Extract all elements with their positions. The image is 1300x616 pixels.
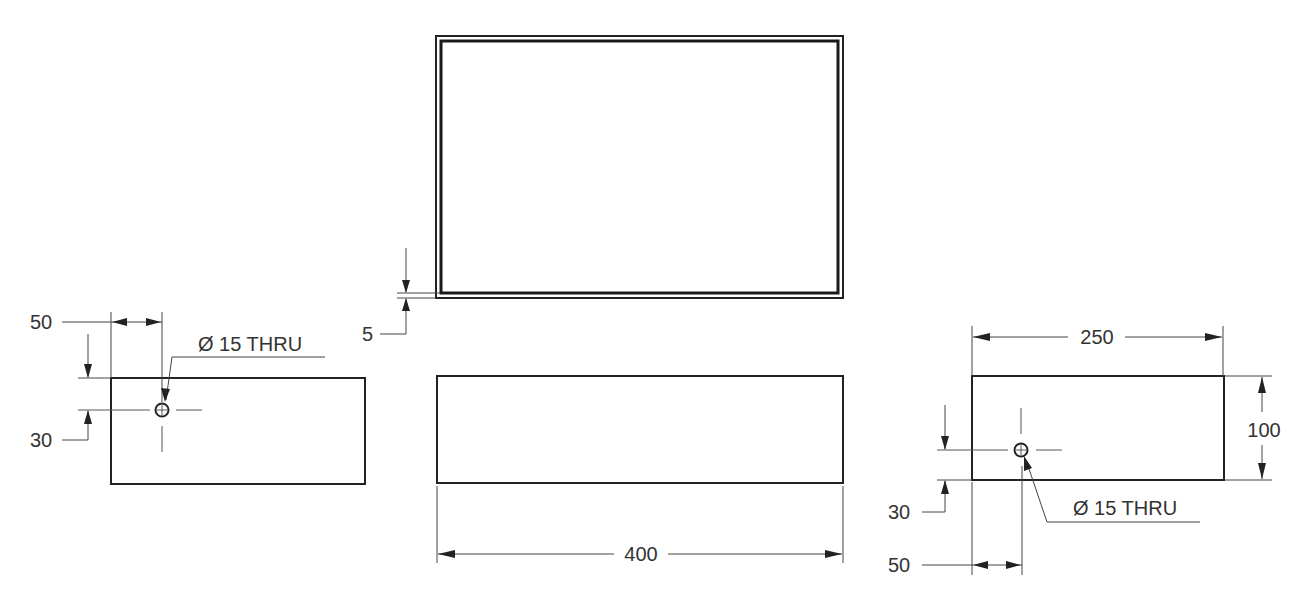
arrow-up-icon (941, 480, 949, 494)
arrow-left-icon (973, 561, 988, 569)
right-view-outline (972, 376, 1224, 480)
top-view: 5 (362, 36, 843, 345)
left-view: 50 30 Ø 15 THRU (30, 311, 365, 484)
hole-y-label: 30 (888, 501, 910, 523)
hole-note-label: Ø 15 THRU (1073, 497, 1177, 519)
hole-y-dimension: 30 (888, 405, 972, 523)
arrow-up-icon (1258, 377, 1266, 393)
width-400-dimension: 400 (437, 486, 843, 565)
arrow-left-icon (112, 318, 127, 326)
width-250-dimension: 250 (972, 326, 1223, 376)
arrow-left-icon (438, 550, 455, 558)
arrow-left-icon (973, 333, 990, 341)
arrow-right-icon (146, 318, 161, 326)
arrow-right-icon (1205, 333, 1222, 341)
hole-x-dimension: 50 (30, 311, 162, 402)
top-view-outer-outline (436, 36, 843, 298)
hole-note-label: Ø 15 THRU (198, 333, 302, 355)
arrow-down-icon (1258, 463, 1266, 479)
hole-y-dimension: 30 (30, 334, 111, 451)
technical-drawing: 5 400 50 (0, 0, 1300, 616)
height-100-dimension: 100 (1225, 376, 1281, 480)
arrow-down-icon (84, 364, 92, 378)
arrow-up-icon (84, 410, 92, 424)
hole-note: Ø 15 THRU (161, 333, 325, 402)
top-view-inner-outline (441, 41, 838, 293)
right-view: 250 100 30 50 (888, 326, 1281, 576)
arrow-up-icon (402, 298, 410, 311)
front-view: 400 (437, 376, 843, 565)
hole-x-label: 50 (30, 311, 52, 333)
hole-x-label: 50 (888, 554, 910, 576)
front-view-outline (437, 376, 843, 483)
wall-thickness-dimension: 5 (362, 248, 440, 345)
hole-note: Ø 15 THRU (1024, 456, 1200, 522)
arrow-right-icon (1006, 561, 1021, 569)
leader-arrow-icon (1024, 456, 1032, 471)
left-view-outline (111, 378, 365, 484)
arrow-down-icon (402, 280, 410, 293)
wall-thickness-label: 5 (362, 323, 373, 345)
arrow-down-icon (941, 436, 949, 450)
width-400-label: 400 (624, 543, 657, 565)
height-100-label: 100 (1247, 419, 1280, 441)
arrow-right-icon (825, 550, 842, 558)
width-250-label: 250 (1080, 326, 1113, 348)
hole-y-label: 30 (30, 429, 52, 451)
